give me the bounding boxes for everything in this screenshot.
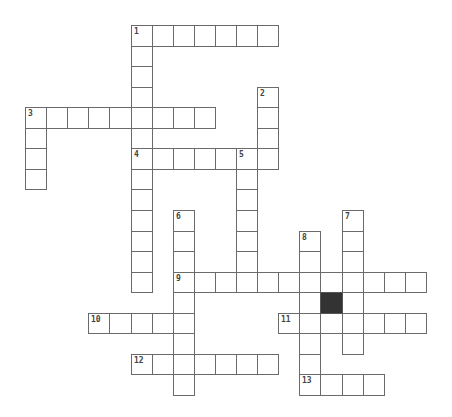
grid-cell-r9-c7[interactable]: 6: [173, 210, 195, 232]
letter-input[interactable]: [343, 232, 363, 251]
grid-cell-r12-c10[interactable]: [236, 272, 258, 293]
letter-input[interactable]: [216, 26, 236, 46]
grid-cell-r6-c9[interactable]: [215, 148, 237, 170]
letter-input[interactable]: [132, 88, 152, 107]
letter-input[interactable]: [258, 108, 278, 128]
letter-input[interactable]: [132, 314, 152, 333]
grid-cell-r5-c11[interactable]: [257, 128, 279, 149]
grid-cell-r6-c0[interactable]: [25, 148, 47, 170]
letter-input[interactable]: [300, 252, 320, 272]
letter-input[interactable]: [153, 108, 173, 128]
grid-cell-r12-c13[interactable]: [299, 272, 321, 293]
grid-cell-r10-c5[interactable]: [131, 231, 153, 252]
grid-cell-r6-c8[interactable]: [194, 148, 216, 170]
letter-input[interactable]: [343, 293, 363, 313]
letter-input[interactable]: [321, 375, 342, 395]
letter-input[interactable]: [237, 252, 257, 272]
letter-input[interactable]: [300, 355, 320, 374]
letter-input[interactable]: [258, 88, 278, 107]
letter-input[interactable]: [132, 67, 152, 87]
grid-cell-r16-c8[interactable]: [194, 354, 216, 375]
grid-cell-r4-c7[interactable]: [173, 107, 195, 129]
grid-cell-r11-c15[interactable]: [342, 251, 364, 273]
grid-cell-r15-c7[interactable]: [173, 333, 195, 355]
grid-cell-r4-c6[interactable]: [152, 107, 174, 129]
letter-input[interactable]: [174, 252, 194, 272]
letter-input[interactable]: [258, 355, 278, 374]
grid-cell-r17-c7[interactable]: [173, 374, 195, 396]
letter-input[interactable]: [132, 129, 152, 148]
letter-input[interactable]: [153, 314, 173, 333]
grid-cell-r11-c5[interactable]: [131, 251, 153, 273]
letter-input[interactable]: [258, 26, 278, 46]
letter-input[interactable]: [237, 170, 257, 189]
letter-input[interactable]: [216, 355, 236, 374]
grid-cell-r14-c12[interactable]: 11: [278, 313, 300, 334]
letter-input[interactable]: [47, 108, 67, 128]
letter-input[interactable]: [132, 26, 152, 46]
letter-input[interactable]: [343, 211, 363, 231]
grid-cell-r16-c7[interactable]: [173, 354, 195, 375]
letter-input[interactable]: [385, 314, 405, 333]
grid-cell-r14-c18[interactable]: [405, 313, 427, 334]
grid-cell-r7-c10[interactable]: [236, 169, 258, 190]
grid-cell-r12-c16[interactable]: [363, 272, 385, 293]
grid-cell-r17-c16[interactable]: [363, 374, 385, 396]
letter-input[interactable]: [89, 108, 109, 128]
letter-input[interactable]: [110, 314, 131, 333]
letter-input[interactable]: [110, 108, 131, 128]
letter-input[interactable]: [343, 375, 363, 395]
letter-input[interactable]: [237, 26, 257, 46]
letter-input[interactable]: [174, 211, 194, 231]
grid-cell-r14-c17[interactable]: [384, 313, 406, 334]
letter-input[interactable]: [300, 334, 320, 354]
grid-cell-r5-c5[interactable]: [131, 128, 153, 149]
grid-cell-r4-c3[interactable]: [88, 107, 110, 129]
grid-cell-r7-c5[interactable]: [131, 169, 153, 190]
letter-input[interactable]: [26, 149, 46, 169]
letter-input[interactable]: [174, 293, 194, 313]
letter-input[interactable]: [406, 273, 426, 292]
letter-input[interactable]: [237, 211, 257, 231]
grid-cell-r11-c13[interactable]: [299, 251, 321, 273]
letter-input[interactable]: [364, 273, 384, 292]
letter-input[interactable]: [132, 232, 152, 251]
letter-input[interactable]: [132, 170, 152, 189]
grid-cell-r4-c5[interactable]: [131, 107, 153, 129]
grid-cell-r14-c15[interactable]: [342, 313, 364, 334]
letter-input[interactable]: [258, 129, 278, 148]
grid-cell-r1-c5[interactable]: [131, 46, 153, 67]
letter-input[interactable]: [237, 273, 257, 292]
grid-cell-r17-c14[interactable]: [320, 374, 343, 396]
letter-input[interactable]: [68, 108, 88, 128]
grid-cell-r9-c10[interactable]: [236, 210, 258, 232]
grid-cell-r2-c5[interactable]: [131, 66, 153, 88]
grid-cell-r16-c5[interactable]: 12: [131, 354, 153, 375]
grid-cell-r12-c14[interactable]: [320, 272, 343, 293]
grid-cell-r9-c15[interactable]: 7: [342, 210, 364, 232]
letter-input[interactable]: [132, 47, 152, 66]
letter-input[interactable]: [216, 149, 236, 169]
letter-input[interactable]: [343, 314, 363, 333]
grid-cell-r16-c11[interactable]: [257, 354, 279, 375]
grid-cell-r14-c6[interactable]: [152, 313, 174, 334]
letter-input[interactable]: [237, 149, 257, 169]
letter-input[interactable]: [321, 314, 342, 333]
grid-cell-r0-c9[interactable]: [215, 25, 237, 47]
grid-cell-r4-c4[interactable]: [109, 107, 132, 129]
grid-cell-r4-c2[interactable]: [67, 107, 89, 129]
grid-cell-r11-c7[interactable]: [173, 251, 195, 273]
grid-cell-r12-c17[interactable]: [384, 272, 406, 293]
letter-input[interactable]: [406, 314, 426, 333]
letter-input[interactable]: [174, 273, 194, 292]
letter-input[interactable]: [153, 355, 173, 374]
letter-input[interactable]: [26, 129, 46, 148]
letter-input[interactable]: [153, 26, 173, 46]
letter-input[interactable]: [343, 273, 363, 292]
letter-input[interactable]: [174, 26, 194, 46]
grid-cell-r12-c18[interactable]: [405, 272, 427, 293]
letter-input[interactable]: [132, 108, 152, 128]
grid-cell-r14-c13[interactable]: [299, 313, 321, 334]
letter-input[interactable]: [174, 149, 194, 169]
grid-cell-r6-c11[interactable]: [257, 148, 279, 170]
